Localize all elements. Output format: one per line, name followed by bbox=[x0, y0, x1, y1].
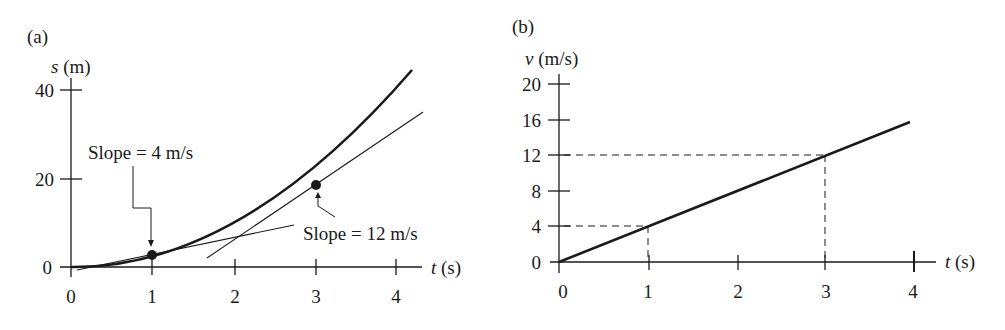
panel-a-ytick-20: 20 bbox=[35, 169, 54, 190]
panel-a-ytick-0: 0 bbox=[43, 257, 53, 278]
panel-b-ytick-4: 4 bbox=[532, 216, 542, 237]
panel-a-annotation2: Slope = 12 m/s bbox=[303, 223, 418, 244]
panel-b-ytick-12: 12 bbox=[522, 145, 541, 166]
panel-b-label: (b) bbox=[512, 16, 534, 38]
panel-b-xtick-3: 3 bbox=[821, 281, 831, 302]
panel-a-annotation2-leader bbox=[318, 196, 335, 217]
arrowhead-icon bbox=[315, 192, 321, 198]
panel-a-ylabel: s (m) bbox=[51, 56, 91, 78]
panel-a-point-t1 bbox=[147, 250, 157, 260]
panel-b-ylabel: v (m/s) bbox=[525, 48, 578, 70]
panel-a-annotation1-leader bbox=[133, 166, 151, 241]
panel-a-xtick-4: 4 bbox=[391, 286, 401, 307]
panel-a-point-t3 bbox=[311, 180, 321, 190]
panel-b: (b) v (m/s) 0 4 8 12 16 20 0 1 2 3 4 bbox=[512, 16, 975, 302]
panel-b-xtick-4: 4 bbox=[908, 281, 918, 302]
panel-a-ytick-40: 40 bbox=[35, 80, 54, 101]
panel-a: (a) s (m) 0 20 40 0 1 2 3 4 t (s) bbox=[27, 26, 461, 307]
panel-a-xtick-0: 0 bbox=[66, 286, 76, 307]
arrowhead-icon bbox=[148, 240, 154, 247]
panel-a-xtick-3: 3 bbox=[311, 286, 321, 307]
panel-b-ytick-0: 0 bbox=[532, 252, 542, 273]
panel-a-annotation1: Slope = 4 m/s bbox=[88, 142, 193, 163]
panel-b-ytick-16: 16 bbox=[522, 110, 541, 131]
panel-b-xtick-0: 0 bbox=[558, 281, 568, 302]
panel-b-ytick-8: 8 bbox=[532, 181, 542, 202]
panel-b-ytick-20: 20 bbox=[522, 74, 541, 95]
panel-a-label: (a) bbox=[27, 26, 48, 48]
panel-b-xtick-2: 2 bbox=[733, 281, 743, 302]
figure: (a) s (m) 0 20 40 0 1 2 3 4 t (s) bbox=[0, 0, 1005, 330]
panel-a-tangent-t1 bbox=[77, 225, 294, 270]
panel-b-xlabel: t (s) bbox=[945, 251, 975, 273]
panel-a-xlabel: t (s) bbox=[431, 257, 461, 279]
panel-b-xtick-1: 1 bbox=[643, 281, 653, 302]
panel-b-velocity-line bbox=[559, 122, 910, 262]
panel-a-xtick-1: 1 bbox=[147, 286, 157, 307]
panel-a-xtick-2: 2 bbox=[230, 286, 240, 307]
